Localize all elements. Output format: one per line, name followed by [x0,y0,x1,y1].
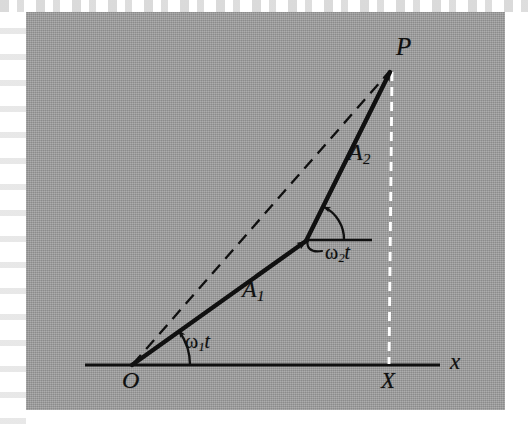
label-axis-x: x [450,350,460,373]
label-projection-foot-x: X [381,369,395,392]
label-vector-a1-base: A [242,276,257,302]
figure-root: P A2 A1 O X x ω1t ω2t [0,0,529,424]
label-vector-a2-base: A [348,139,363,165]
page-bleed-top [0,0,529,12]
label-vector-a1: A1 [242,277,264,304]
label-angle-omega2-time: t [345,241,351,263]
figure-gray-panel [26,12,505,410]
page-bleed-left [0,12,26,424]
label-vector-a2-subscript: 2 [363,151,371,167]
label-angle-omega1-symbol: ω [185,330,198,352]
label-vector-a2: A2 [348,140,370,167]
label-point-p: P [396,34,411,59]
label-angle-omega1-time: t [205,330,211,352]
label-origin-o: O [122,368,139,392]
label-angle-omega2t: ω2t [325,242,350,265]
label-angle-omega2-symbol: ω [325,241,338,263]
label-angle-omega1t: ω1t [185,331,210,354]
label-vector-a1-subscript: 1 [257,288,265,304]
